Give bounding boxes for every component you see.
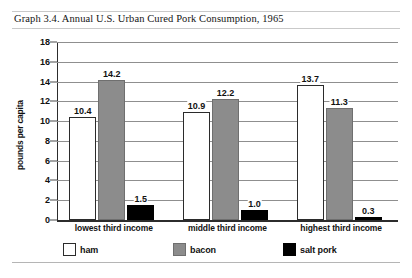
legend-label: bacon (190, 245, 216, 255)
bar-value-label: 14.2 (102, 69, 122, 79)
gridline (57, 42, 398, 43)
y-tick-label: 16 (10, 57, 50, 67)
bar-value-label: 10.4 (73, 106, 93, 116)
y-tick-mark (50, 61, 57, 62)
bar-value-label: 1.5 (134, 194, 149, 204)
gridline (57, 62, 398, 63)
category-label: highest third income (284, 223, 398, 233)
y-tick-mark (50, 180, 57, 181)
bottom-rule (12, 262, 400, 263)
bar-bacon-middle: 12.2 (212, 99, 239, 220)
bar-bacon-lowest: 14.2 (98, 80, 125, 220)
chart-legend: hambaconsalt pork (57, 243, 398, 261)
legend-swatch-icon (63, 243, 76, 256)
bar-salt-pork-middle: 1.0 (241, 210, 268, 220)
y-tick-mark (50, 101, 57, 102)
top-rule (12, 11, 400, 12)
y-tick-label: 6 (10, 156, 50, 166)
category-label: middle third income (171, 223, 285, 233)
legend-item-bacon[interactable]: bacon (173, 243, 216, 256)
bar-ham-middle: 10.9 (183, 112, 210, 220)
y-tick-mark (50, 81, 57, 82)
chart-title: Graph 3.4. Annual U.S. Urban Cured Pork … (14, 13, 284, 24)
bar-value-label: 1.0 (247, 199, 262, 209)
bar-value-label: 13.7 (300, 74, 320, 84)
y-tick-label: 18 (10, 37, 50, 47)
y-tick-label: 12 (10, 96, 50, 106)
y-tick-label: 14 (10, 77, 50, 87)
title-underline-rule (12, 28, 400, 29)
y-tick-label: 2 (10, 195, 50, 205)
legend-swatch-icon (173, 243, 186, 256)
legend-swatch-icon (283, 243, 296, 256)
category-label: lowest third income (57, 223, 171, 233)
y-tick-label: 4 (10, 175, 50, 185)
y-tick-mark (50, 160, 57, 161)
bar-value-label: 11.3 (330, 97, 349, 107)
bar-value-label: 10.9 (187, 101, 207, 111)
chart-figure: Graph 3.4. Annual U.S. Urban Cured Pork … (0, 0, 412, 278)
legend-item-salt-pork[interactable]: salt pork (283, 243, 337, 256)
bar-value-label: 0.3 (361, 206, 376, 216)
y-tick-mark (50, 121, 57, 122)
bar-ham-highest: 13.7 (297, 85, 324, 220)
y-tick-mark (50, 42, 57, 43)
bar-value-label: 12.2 (216, 88, 236, 98)
x-axis-baseline (57, 220, 398, 222)
legend-label: ham (80, 245, 98, 255)
bar-bacon-highest: 11.3 (326, 108, 353, 220)
y-tick-label: 0 (10, 215, 50, 225)
plot-area: 10.414.21.510.912.21.013.711.30.3 (57, 42, 398, 220)
y-tick-label: 10 (10, 116, 50, 126)
y-tick-mark (50, 140, 57, 141)
y-tick-mark (50, 220, 57, 221)
legend-label: salt pork (300, 245, 337, 255)
y-tick-label: 8 (10, 136, 50, 146)
bar-ham-lowest: 10.4 (69, 117, 96, 220)
y-tick-mark (50, 200, 57, 201)
legend-item-ham[interactable]: ham (63, 243, 98, 256)
bar-salt-pork-lowest: 1.5 (127, 205, 154, 220)
